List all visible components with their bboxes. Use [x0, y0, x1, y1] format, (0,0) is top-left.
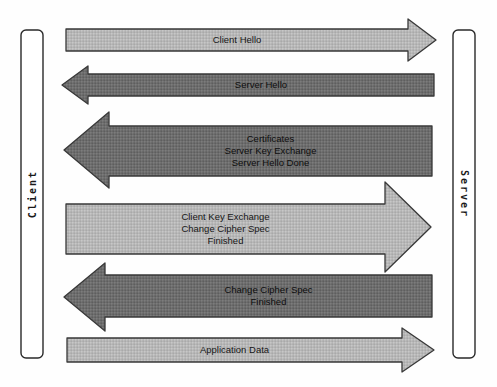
server-actor-label: Server — [459, 170, 470, 218]
certificates-arrow-shape — [64, 112, 432, 188]
server-hello-arrow-shape — [62, 66, 434, 104]
client-key-exchange-arrow-shape — [66, 182, 431, 272]
application-data-arrow-shape — [67, 328, 434, 372]
change-cipher-spec-arrow-shape — [64, 263, 432, 331]
diagram-canvas — [0, 0, 497, 387]
client-actor-label: Client — [27, 170, 38, 218]
tls-handshake-diagram: Client Server Client Hello Server Hello … — [0, 0, 497, 387]
client-actor-bar: Client — [21, 30, 43, 358]
server-actor-bar: Server — [453, 30, 475, 358]
client-hello-arrow-shape — [66, 19, 436, 61]
